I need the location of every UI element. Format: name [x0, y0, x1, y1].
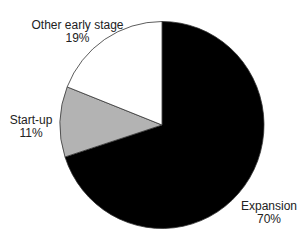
- label-other-early-stage: Other early stage 19%: [30, 19, 125, 45]
- label-other-pct: 19%: [30, 32, 125, 45]
- label-expansion-pct: 70%: [238, 213, 300, 226]
- pie-slices: [60, 21, 264, 228]
- label-expansion: Expansion 70%: [238, 200, 300, 226]
- label-startup-pct: 11%: [6, 127, 56, 140]
- label-start-up: Start-up 11%: [6, 114, 56, 140]
